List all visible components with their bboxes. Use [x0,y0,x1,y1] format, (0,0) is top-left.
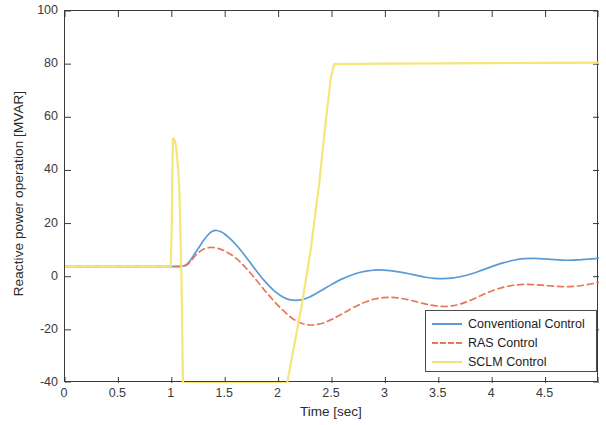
legend-swatch-dashed-line-icon [432,337,462,349]
x-tick-label: 2.5 [322,386,339,400]
legend-item-conventional-control[interactable]: Conventional Control [426,314,596,333]
x-tick-label: 4 [488,386,495,400]
x-tick-label: 3.5 [429,386,446,400]
legend-swatch-solid-line-icon [432,318,462,330]
x-tick-label: 3 [381,386,388,400]
legend-label: SCLM Control [468,355,547,369]
x-axis-title: Time [sec] [64,404,598,419]
x-tick-label: 0 [61,386,68,400]
y-tick-label: 0 [51,269,58,283]
x-tick-label: 0.5 [109,386,126,400]
y-tick-label: 40 [44,162,58,176]
y-tick-label: 20 [44,216,58,230]
series-line-conventional-control [65,230,599,300]
chart-legend: Conventional ControlRAS ControlSCLM Cont… [425,310,597,372]
x-tick-label: 2 [274,386,281,400]
legend-label: Conventional Control [468,317,585,331]
x-tick-label: 1 [167,386,174,400]
legend-label: RAS Control [468,336,537,350]
reactive-power-chart-figure: Reactive power operation [MVAR] 10080604… [0,0,606,425]
y-tick-label: -40 [40,375,58,389]
x-tick-label: 4.5 [536,386,553,400]
y-tick-label: -20 [40,322,58,336]
y-tick-label: 80 [44,56,58,70]
legend-swatch-solid-line-icon [432,356,462,368]
legend-item-ras-control[interactable]: RAS Control [426,333,596,352]
legend-item-sclm-control[interactable]: SCLM Control [426,352,596,371]
y-axis-title: Reactive power operation [MVAR] [11,24,26,364]
y-tick-label: 60 [44,109,58,123]
y-tick-label: 100 [37,3,58,17]
x-tick-label: 1.5 [215,386,232,400]
